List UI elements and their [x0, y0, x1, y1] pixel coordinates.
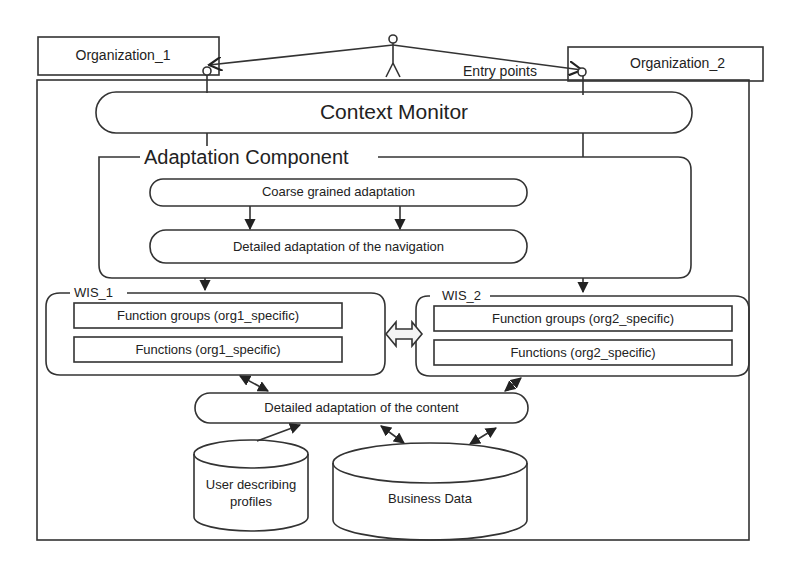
actor-icon: [386, 35, 400, 77]
wis-2-functions: Functions (org2_specific): [434, 345, 732, 360]
wis-2-box: [416, 296, 749, 376]
user-profiles-label-line2: profiles: [194, 494, 308, 509]
wis-2-title: WIS_2: [440, 288, 483, 303]
coarse-adaptation-label: Coarse grained adaptation: [150, 184, 527, 199]
organization-1-label: Organization_1: [38, 47, 208, 63]
context-monitor-label: Context Monitor: [96, 100, 692, 124]
adaptation-component-box: [99, 157, 691, 278]
wis-2-function-groups: Function groups (org2_specific): [434, 311, 732, 326]
wis-1-function-groups: Function groups (org1_specific): [74, 308, 342, 323]
adaptation-component-title: Adaptation Component: [142, 146, 351, 169]
wis-1-title: WIS_1: [72, 285, 115, 300]
entry-points-label: Entry points: [450, 63, 550, 79]
user-profiles-label-line1: User describing: [194, 477, 308, 492]
diagram-canvas: [0, 0, 795, 564]
navigation-adaptation-label: Detailed adaptation of the navigation: [150, 239, 527, 254]
business-data-label: Business Data: [333, 491, 527, 506]
organization-2-label: Organization_2: [590, 55, 765, 71]
wis-1-functions: Functions (org1_specific): [74, 342, 342, 357]
content-adaptation-label: Detailed adaptation of the content: [195, 400, 528, 415]
